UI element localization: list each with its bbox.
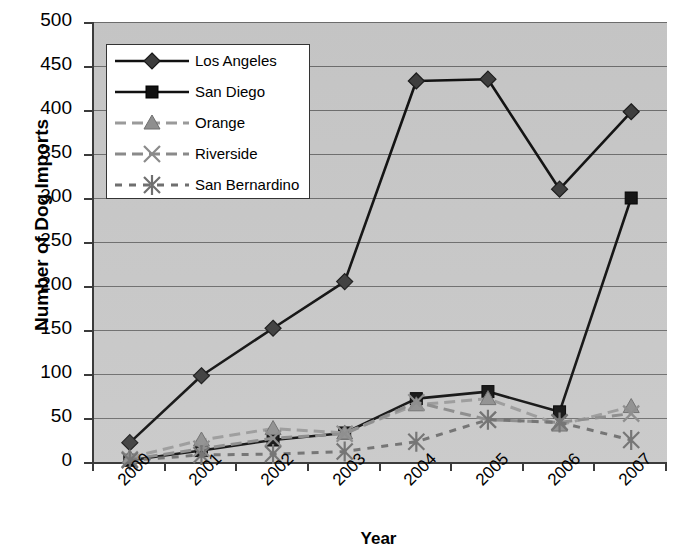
- legend-item-label: Riverside: [195, 145, 258, 162]
- chart-container: Number of Dog Imports 050100150200250300…: [0, 0, 686, 559]
- square-icon: [113, 82, 191, 102]
- y-tick-label: 500: [40, 9, 72, 31]
- x-tick-mark: [450, 462, 452, 471]
- legend-key-swatch: [113, 144, 191, 164]
- y-tick-label: 200: [40, 273, 72, 295]
- x-tick-mark: [593, 462, 595, 471]
- legend-item-los-angeles[interactable]: Los Angeles: [107, 45, 309, 76]
- data-point-square: [146, 86, 158, 98]
- x-tick-mark: [307, 462, 309, 471]
- y-tick-label: 0: [61, 449, 72, 471]
- x-tick-mark: [665, 462, 667, 471]
- legend-item-riverside[interactable]: Riverside: [107, 138, 309, 169]
- legend-item-orange[interactable]: Orange: [107, 107, 309, 138]
- triangle-icon: [113, 113, 191, 133]
- y-tick-label: 250: [40, 229, 72, 251]
- asterisk-icon: [113, 175, 191, 195]
- legend-key-swatch: [113, 82, 191, 102]
- legend-item-label: Orange: [195, 114, 245, 131]
- y-tick-label: 150: [40, 317, 72, 339]
- chart-legend: Los AngelesSan DiegoOrangeRiversideSan B…: [106, 44, 310, 199]
- legend-key-swatch: [113, 51, 191, 71]
- legend-item-label: Los Angeles: [195, 52, 277, 69]
- data-point-diamond: [265, 320, 281, 336]
- x-tick-mark: [235, 462, 237, 471]
- y-tick-label: 350: [40, 141, 72, 163]
- y-tick-label: 400: [40, 97, 72, 119]
- x-tick-mark: [164, 462, 166, 471]
- y-tick-label: 300: [40, 185, 72, 207]
- data-point-asterisk: [623, 430, 639, 450]
- series-line: [130, 198, 631, 460]
- legend-key-swatch: [113, 113, 191, 133]
- y-tick-label: 100: [40, 361, 72, 383]
- data-point-triangle: [623, 399, 639, 413]
- x-axis-title: Year: [92, 529, 665, 549]
- legend-item-label: San Diego: [195, 83, 265, 100]
- y-tick-label: 50: [51, 405, 72, 427]
- legend-key-swatch: [113, 175, 191, 195]
- data-point-diamond: [480, 71, 496, 87]
- data-point-diamond: [337, 274, 353, 290]
- x-tick-mark: [379, 462, 381, 471]
- y-tick-label: 450: [40, 53, 72, 75]
- data-point-square: [625, 192, 637, 204]
- x-tick-mark: [92, 462, 94, 471]
- legend-item-label: San Bernardino: [195, 176, 299, 193]
- legend-item-san-bernardino[interactable]: San Bernardino: [107, 169, 309, 200]
- x-icon: [113, 144, 191, 164]
- data-point-diamond: [144, 53, 160, 69]
- legend-item-san-diego[interactable]: San Diego: [107, 76, 309, 107]
- data-point-diamond: [408, 73, 424, 89]
- x-tick-mark: [522, 462, 524, 471]
- diamond-icon: [113, 51, 191, 71]
